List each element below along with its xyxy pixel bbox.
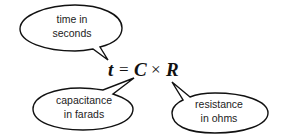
- equation-R: R: [165, 59, 179, 80]
- callout-resistance: resistance in ohms: [172, 82, 268, 133]
- equation: t = C × R: [108, 59, 179, 80]
- callout-capacitance: capacitance in farads: [33, 78, 134, 130]
- callout-capacitance-line1: capacitance: [56, 94, 112, 106]
- equation-times: ×: [151, 60, 161, 79]
- equation-C: C: [134, 59, 147, 80]
- callout-resistance-line2: in ohms: [201, 112, 238, 124]
- callout-time-line1: time in: [57, 13, 88, 25]
- time-constant-diagram: time in seconds t = C × R capacitance in…: [0, 0, 290, 135]
- equation-equals: =: [119, 60, 129, 79]
- callout-resistance-line1: resistance: [195, 98, 243, 110]
- callout-capacitance-line2: in farads: [64, 108, 104, 120]
- callout-time-line2: seconds: [52, 27, 91, 39]
- equation-t: t: [108, 59, 114, 80]
- callout-time: time in seconds: [20, 5, 122, 60]
